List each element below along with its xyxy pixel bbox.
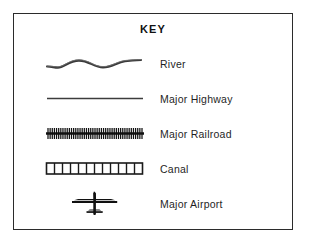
canal-symbol [45,151,145,186]
major-railroad-symbol [45,116,145,151]
legend-row-major-railroad: Major Railroad [14,116,292,151]
major-highway-symbol [45,81,145,116]
legend-row-river: River [14,46,292,81]
legend-label-major-airport: Major Airport [160,186,223,221]
legend-entry-list: River Major Highway Major Railroad [14,46,292,221]
legend-label-canal: Canal [160,151,189,186]
legend-row-major-highway: Major Highway [14,81,292,116]
major-airport-symbol [45,186,145,221]
legend-row-major-airport: Major Airport [14,186,292,221]
legend-label-major-railroad: Major Railroad [160,116,232,151]
river-symbol [45,46,145,81]
legend-panel: KEY River Major Highway [13,13,293,230]
legend-label-river: River [160,46,186,81]
legend-row-canal: Canal [14,151,292,186]
airplane-icon [72,192,117,216]
legend-title: KEY [14,23,292,35]
legend-label-major-highway: Major Highway [160,81,233,116]
